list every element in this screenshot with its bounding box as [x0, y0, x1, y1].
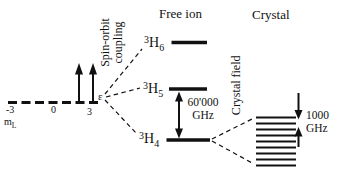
energy-level-diagram: Free ion Crystal Spin-orbit coupling Cry…: [0, 0, 340, 172]
spin-up-arrow-right: [89, 63, 97, 101]
term-3h4-sup: 3: [139, 130, 144, 141]
term-3h4-sub: 4: [154, 138, 159, 149]
spin-orbit-coupling-label: Spin-orbit coupling: [99, 11, 124, 75]
spin-orbit-label-line2: coupling: [111, 11, 124, 75]
ml-axis-label: mL: [4, 117, 16, 128]
spin-orbit-splitting-value: 60'000: [185, 96, 221, 109]
term-3h5-letter: H: [148, 81, 158, 96]
crystal-field-fan-dashes: [212, 118, 254, 164]
crystal-field-splitting-unit: GHz: [306, 122, 329, 135]
term-label-3h5: 3H5: [143, 82, 163, 96]
free-ion-header: Free ion: [159, 7, 202, 21]
term-3h6-sub: 6: [159, 42, 164, 53]
fan-brace-glyph: ε: [98, 91, 103, 102]
crystal-header: Crystal: [252, 8, 290, 22]
spin-orbit-label-line1: Spin-orbit: [99, 11, 112, 75]
spin-orbit-splitting-unit: GHz: [185, 109, 221, 122]
ml-tick-0: 0: [51, 105, 56, 116]
ml-tick-minus3: -3: [6, 105, 14, 116]
term-3h5-sup: 3: [143, 80, 148, 91]
cf-spacing-down-arrow: [295, 93, 303, 120]
spin-up-arrow-left: [75, 63, 83, 101]
term-3h4-letter: H: [144, 131, 154, 146]
crystal-field-label: Crystal field: [230, 49, 243, 121]
ml-tick-3: 3: [87, 107, 92, 118]
diagram-graphics: [0, 0, 340, 172]
crystal-field-levels: [256, 118, 296, 166]
term-label-3h6: 3H6: [144, 36, 164, 50]
term-3h6-letter: H: [149, 35, 159, 50]
ml-axis-symbol: m: [4, 116, 12, 127]
spin-orbit-splitting-annotation: 60'000 GHz: [185, 96, 221, 121]
term-label-3h4: 3H4: [139, 132, 159, 146]
splitting-double-arrow: [175, 92, 183, 139]
crystal-field-splitting-value: 1000: [306, 109, 329, 122]
term-3h6-sup: 3: [144, 34, 149, 45]
crystal-field-splitting-annotation: 1000 GHz: [306, 109, 329, 134]
term-3h5-sub: 5: [158, 88, 163, 99]
ml-axis-symbol-sub: L: [12, 121, 17, 130]
